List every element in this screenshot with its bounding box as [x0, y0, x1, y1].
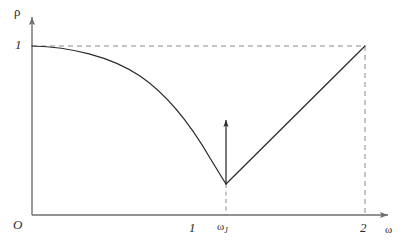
- curve-decreasing-branch: [32, 46, 226, 184]
- curve-rising-branch: [226, 46, 365, 184]
- x-tick-label-two: 2: [360, 221, 367, 234]
- y-tick-label-one: 1: [15, 38, 22, 51]
- plot-svg: [0, 0, 404, 244]
- x-tick-label-omega-j-subscript: J: [224, 226, 228, 235]
- x-tick-label-one: 1: [189, 221, 196, 234]
- x-tick-label-omega-j: ωJ: [217, 221, 228, 232]
- origin-label: O: [13, 218, 22, 231]
- x-axis-label: ω: [385, 224, 392, 235]
- figure-container: ρ 1 O 1 ωJ 2 ω: [0, 0, 404, 244]
- y-axis-label: ρ: [14, 5, 21, 18]
